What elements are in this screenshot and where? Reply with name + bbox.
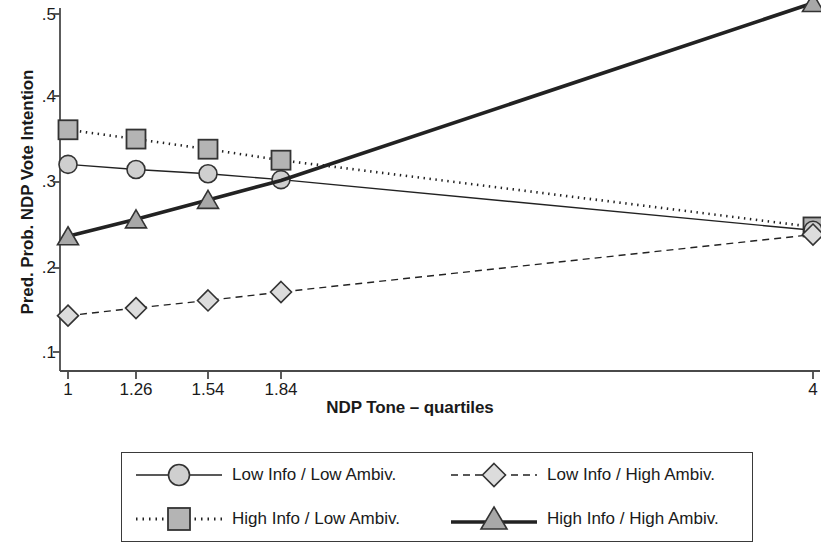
series-triangle (58, 0, 821, 245)
plot-area (0, 0, 821, 420)
data-point-diamond-3 (271, 282, 292, 303)
series-square (59, 120, 821, 236)
legend-key-circle-icon (132, 460, 226, 490)
data-point-diamond-1 (126, 298, 147, 319)
data-point-diamond-2 (198, 290, 219, 311)
data-point-square-0 (59, 120, 78, 139)
chart-series-layer (58, 0, 821, 326)
data-point-circle-2 (199, 165, 217, 183)
legend-label-2: High Info / Low Ambiv. (226, 509, 400, 529)
legend-label-3: High Info / High Ambiv. (541, 509, 719, 529)
chart-figure: Pred. Prob. NDP Vote Intention NDP Tone … (0, 0, 821, 548)
data-point-square-1 (127, 130, 146, 149)
data-point-square-3 (272, 151, 291, 170)
data-point-triangle-4 (803, 0, 821, 12)
chart-legend: Low Info / Low Ambiv. Low Info / High Am… (121, 452, 753, 542)
legend-item-low-info-high-ambiv[interactable]: Low Info / High Ambiv. (437, 460, 752, 490)
legend-label-0: Low Info / Low Ambiv. (226, 465, 396, 485)
legend-item-high-info-high-ambiv[interactable]: High Info / High Ambiv. (437, 504, 752, 534)
series-diamond (58, 224, 821, 326)
series-circle (59, 155, 821, 239)
legend-key-square-icon (132, 504, 226, 534)
legend-label-1: Low Info / High Ambiv. (541, 465, 715, 485)
legend-key-diamond-icon (447, 460, 541, 490)
data-point-square-2 (199, 140, 218, 159)
chart-axes (53, 8, 820, 379)
legend-item-high-info-low-ambiv[interactable]: High Info / Low Ambiv. (122, 504, 437, 534)
data-point-circle-0 (59, 155, 77, 173)
legend-key-triangle-icon (447, 504, 541, 534)
legend-item-low-info-low-ambiv[interactable]: Low Info / Low Ambiv. (122, 460, 437, 490)
data-point-circle-1 (127, 160, 145, 178)
